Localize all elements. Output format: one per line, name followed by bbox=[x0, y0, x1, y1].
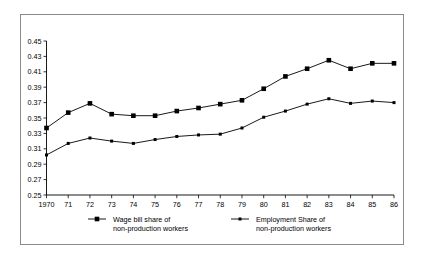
chart-axes bbox=[47, 41, 395, 195]
data-series bbox=[44, 58, 396, 130]
legend-item: Employment Share ofnon-production worker… bbox=[231, 215, 332, 233]
data-point-marker bbox=[283, 74, 288, 79]
data-point-marker bbox=[393, 101, 396, 104]
data-point-marker bbox=[262, 116, 265, 119]
data-point-marker bbox=[327, 58, 332, 63]
data-point-marker bbox=[261, 86, 266, 91]
x-tick-label: 1970 bbox=[39, 200, 55, 209]
data-point-marker bbox=[305, 66, 310, 71]
x-tick-label: 76 bbox=[173, 200, 181, 209]
data-point-marker bbox=[218, 102, 223, 107]
data-point-marker bbox=[306, 103, 309, 106]
legend-marker bbox=[95, 217, 100, 222]
data-point-marker bbox=[67, 142, 70, 145]
y-tick-label: 0.37 bbox=[28, 98, 42, 107]
data-point-marker bbox=[44, 126, 49, 131]
chart-figure: 0.450.430.410.390.370.350.330.310.290.27… bbox=[0, 0, 423, 261]
x-tick-label: 86 bbox=[390, 200, 398, 209]
data-point-marker bbox=[88, 101, 93, 106]
y-tick-label: 0.33 bbox=[28, 129, 42, 138]
data-point-marker bbox=[88, 137, 91, 140]
data-point-marker bbox=[132, 142, 135, 145]
x-axis-labels: 197071727374757677787980818283848586 bbox=[39, 200, 399, 209]
data-point-marker bbox=[109, 112, 114, 117]
x-tick-label: 75 bbox=[151, 200, 159, 209]
x-tick-label: 78 bbox=[216, 200, 224, 209]
series-line bbox=[47, 60, 395, 128]
data-point-marker bbox=[370, 61, 375, 66]
x-tick-label: 74 bbox=[129, 200, 137, 209]
line-chart: 0.450.430.410.390.370.350.330.310.290.27… bbox=[0, 0, 423, 261]
data-point-marker bbox=[45, 153, 48, 156]
data-point-marker bbox=[240, 98, 245, 103]
x-tick-label: 84 bbox=[347, 200, 355, 209]
data-point-marker bbox=[196, 106, 201, 111]
y-tick-label: 0.29 bbox=[28, 160, 42, 169]
data-point-marker bbox=[153, 113, 158, 118]
data-point-marker bbox=[197, 133, 200, 136]
plot-area: 0.450.430.410.390.370.350.330.310.290.27… bbox=[0, 0, 423, 261]
x-axis-ticks bbox=[47, 195, 395, 198]
x-tick-label: 81 bbox=[281, 200, 289, 209]
data-point-marker bbox=[110, 140, 113, 143]
data-series-group bbox=[44, 58, 396, 157]
x-tick-label: 85 bbox=[368, 200, 376, 209]
x-tick-label: 71 bbox=[64, 200, 72, 209]
data-point-marker bbox=[131, 113, 136, 118]
data-point-marker bbox=[284, 110, 287, 113]
y-tick-label: 0.43 bbox=[28, 52, 42, 61]
x-tick-label: 72 bbox=[86, 200, 94, 209]
data-point-marker bbox=[392, 61, 397, 66]
y-tick-label: 0.27 bbox=[28, 175, 42, 184]
x-tick-label: 73 bbox=[108, 200, 116, 209]
x-tick-label: 77 bbox=[195, 200, 203, 209]
data-point-marker bbox=[348, 66, 353, 71]
data-point-marker bbox=[371, 100, 374, 103]
data-point-marker bbox=[349, 102, 352, 105]
y-tick-label: 0.41 bbox=[28, 67, 42, 76]
x-tick-label: 82 bbox=[303, 200, 311, 209]
data-point-marker bbox=[219, 133, 222, 136]
legend-item: Wage bill share ofnon-production workers bbox=[88, 215, 189, 233]
data-point-marker bbox=[240, 127, 243, 130]
x-tick-label: 83 bbox=[325, 200, 333, 209]
data-point-marker bbox=[175, 109, 180, 114]
x-tick-label: 79 bbox=[238, 200, 246, 209]
legend-marker bbox=[239, 218, 242, 221]
y-tick-label: 0.31 bbox=[28, 144, 42, 153]
legend-label-line1: Employment Share of bbox=[256, 215, 325, 224]
chart-legend: Wage bill share ofnon-production workers… bbox=[88, 215, 332, 233]
data-point-marker bbox=[327, 97, 330, 100]
legend-label-line2: non-production workers bbox=[113, 224, 189, 233]
y-tick-label: 0.25 bbox=[28, 191, 42, 200]
y-tick-label: 0.35 bbox=[28, 114, 42, 123]
legend-label-line1: Wage bill share of bbox=[113, 215, 170, 224]
y-tick-label: 0.39 bbox=[28, 83, 42, 92]
legend-label-line2: non-production workers bbox=[256, 224, 332, 233]
y-tick-label: 0.45 bbox=[28, 37, 42, 46]
data-point-marker bbox=[154, 138, 157, 141]
data-point-marker bbox=[175, 135, 178, 138]
y-axis-labels: 0.450.430.410.390.370.350.330.310.290.27… bbox=[28, 37, 42, 200]
x-tick-label: 80 bbox=[260, 200, 268, 209]
data-point-marker bbox=[66, 110, 71, 115]
